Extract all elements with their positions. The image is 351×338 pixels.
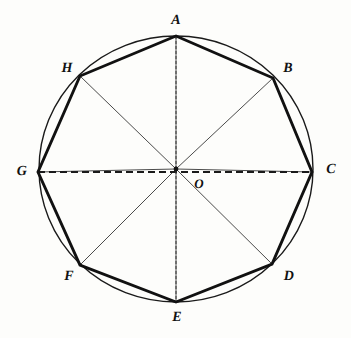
- octagon-diagram-svg: [0, 0, 351, 338]
- center-point-dot: [174, 167, 179, 172]
- vertex-label-c: C: [326, 163, 336, 177]
- vertex-label-b: B: [283, 62, 293, 76]
- radius-OF: [80, 169, 176, 265]
- center-point-group: [174, 167, 179, 172]
- vertex-label-g: G: [17, 165, 27, 179]
- vertex-label-a: A: [171, 14, 181, 28]
- radius-OD: [176, 169, 272, 264]
- vertex-label-f: F: [64, 270, 74, 284]
- center-label-o: O: [194, 177, 204, 190]
- geometry-figure: ABCDEFGHO: [0, 0, 351, 338]
- vertex-label-h: H: [61, 62, 72, 76]
- vertex-label-d: D: [284, 270, 294, 284]
- radius-OH: [80, 76, 176, 169]
- vertex-label-e: E: [172, 311, 182, 325]
- radius-OB: [176, 78, 273, 169]
